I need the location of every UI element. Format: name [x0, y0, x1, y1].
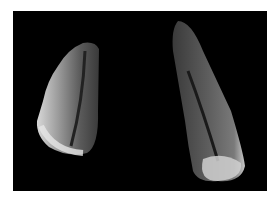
left-tooth [37, 43, 99, 155]
right-tooth [173, 21, 245, 181]
specimen-photo [13, 11, 267, 191]
specimens-illustration [13, 11, 267, 191]
